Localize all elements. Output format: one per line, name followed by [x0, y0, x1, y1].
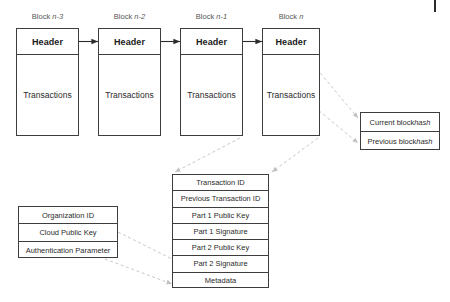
- block-header-detail-box[interactable]: Current block hash Previous block hash: [360, 112, 440, 150]
- authentication-parameter-row: Authentication Parameter: [19, 242, 117, 259]
- organization-credentials-box[interactable]: Organization ID Cloud Public Key Authent…: [18, 206, 118, 258]
- block-transactions-cell: Transactions: [99, 55, 160, 135]
- dashed-blockn1-to-tx-left: [175, 138, 240, 172]
- part-1-signature-row: Part 1 Signature: [173, 224, 268, 240]
- block-header-cell: Header: [181, 29, 242, 55]
- block-label-2: Block n-2: [98, 12, 161, 21]
- block-label-3: Block n-1: [180, 12, 243, 21]
- block-n-2[interactable]: Header Transactions: [98, 28, 161, 136]
- current-block-hash-row: Current block hash: [361, 113, 439, 132]
- transaction-expansion-connectors: [175, 138, 318, 172]
- transaction-id-row: Transaction ID: [173, 175, 268, 191]
- block-n[interactable]: Header Transactions: [262, 28, 320, 136]
- part-2-public-key-row: Part 2 Public Key: [173, 240, 268, 256]
- block-header-cell: Header: [263, 29, 319, 55]
- block-label-1: Block n-3: [16, 12, 79, 21]
- block-transactions-cell: Transactions: [181, 55, 242, 135]
- dashed-org-to-metadata-lower: [105, 259, 172, 284]
- part-1-public-key-row: Part 1 Public Key: [173, 208, 268, 224]
- block-n-3[interactable]: Header Transactions: [16, 28, 79, 136]
- transaction-detail-box[interactable]: Transaction ID Previous Transaction ID P…: [172, 174, 269, 288]
- part-2-signature-row: Part 2 Signature: [173, 256, 268, 272]
- block-header-cell: Header: [17, 29, 78, 55]
- diagram-canvas: Block n-3 Header Transactions Block n-2 …: [0, 0, 450, 302]
- page-margin-tick: [434, 0, 436, 12]
- block-transactions-cell: Transactions: [263, 55, 319, 135]
- block-n-1[interactable]: Header Transactions: [180, 28, 243, 136]
- block-label-4: Block n: [262, 12, 320, 21]
- dashed-blockn-to-tx-right: [272, 138, 318, 172]
- organization-id-row: Organization ID: [19, 207, 117, 224]
- cloud-public-key-row: Cloud Public Key: [19, 224, 117, 241]
- previous-block-hash-row: Previous block hash: [361, 132, 439, 151]
- block-header-cell: Header: [99, 29, 160, 55]
- metadata-row: Metadata: [173, 273, 268, 289]
- previous-transaction-id-row: Previous Transaction ID: [173, 191, 268, 207]
- block-transactions-cell: Transactions: [17, 55, 78, 135]
